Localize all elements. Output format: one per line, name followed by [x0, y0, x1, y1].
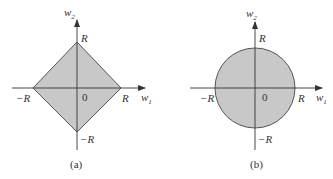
y-axis-label: w2: [246, 7, 257, 22]
right-label: R: [121, 92, 129, 104]
panel-a: w2 w1 R R −R −R 0 (a): [12, 6, 152, 171]
left-label: −R: [16, 92, 30, 104]
right-label: R: [297, 92, 305, 104]
panel-b: w2 w1 R R −R −R 0 (b): [190, 7, 327, 171]
caption: (b): [250, 158, 263, 171]
bottom-label: −R: [258, 133, 272, 145]
x-axis-label: w1: [141, 91, 152, 106]
top-label: R: [80, 32, 88, 44]
left-label: −R: [200, 92, 214, 104]
x-axis-label: w1: [316, 91, 327, 106]
top-label: R: [258, 32, 266, 44]
diagram-canvas: w2 w1 R R −R −R 0 (a) w2 w1 R R −R −R 0 …: [0, 0, 333, 179]
y-axis-label: w2: [64, 6, 75, 21]
caption: (a): [70, 158, 83, 171]
origin-label: 0: [262, 91, 268, 103]
origin-label: 0: [82, 91, 88, 103]
bottom-label: −R: [80, 133, 94, 145]
